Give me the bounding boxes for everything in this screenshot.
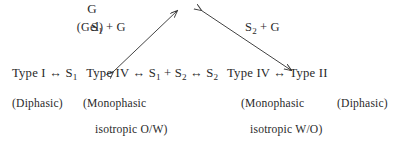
phase-s1-center: S1 — [149, 66, 161, 80]
caption-center-left-line2: isotropic O/W) — [95, 124, 168, 136]
caption-far-left: (Diphasic) — [12, 98, 63, 110]
caption-center-right-line2: isotropic W/O) — [250, 124, 322, 136]
right-arrow-label: S2 + G — [245, 21, 280, 36]
apex-gel-sublabel: (Gel) — [0, 21, 412, 33]
caption-center-right-line1: (Monophasic — [241, 98, 304, 110]
apex-gel-symbol-text: G — [87, 1, 97, 16]
phase-s2-right: S2 — [206, 66, 218, 80]
caption-center-left-line1: (Monophasic — [83, 98, 146, 110]
left-arrow-label-subscript: 1 — [98, 26, 103, 36]
phase-type-iv-right: Type IV — [227, 66, 270, 80]
equilibrium-arrow-icon: ↔ — [49, 66, 62, 80]
phase-type-iv-left: Type IV — [86, 66, 129, 80]
apex-gel-symbol: G — [0, 2, 412, 15]
plus-sign: + — [164, 66, 171, 80]
phase-behavior-diagram: G (Gel) S1 + G S2 + G Type I ↔ S1Type IV… — [0, 0, 412, 146]
equilibrium-arrow-icon: ↔ — [273, 66, 286, 80]
phase-equilibrium-row: Type I ↔ S1Type IV ↔ S1 + S2 ↔ S2Type IV… — [12, 67, 328, 82]
phase-type-i: Type I — [12, 66, 46, 80]
phase-s1-left: S1 — [65, 66, 77, 80]
phase-s2-center: S2 — [175, 66, 187, 80]
phase-type-ii: Type II — [289, 66, 327, 80]
right-arrow-label-subscript: 2 — [252, 26, 257, 36]
equilibrium-arrow-icon: ↔ — [190, 66, 203, 80]
left-arrow-label: S1 + G — [91, 21, 126, 36]
equilibrium-arrow-icon: ↔ — [133, 66, 146, 80]
caption-far-right: (Diphasic) — [337, 98, 388, 110]
